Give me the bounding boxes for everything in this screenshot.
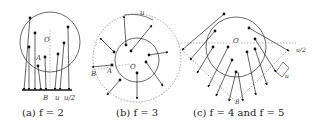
label-a: A (35, 54, 41, 62)
panel-a-diagram: O A B u u/2 (20, 12, 80, 102)
panel-c-diagram: O u/2 u B (178, 13, 306, 105)
caption-c: (c) f = 4 and f = 5 (193, 107, 284, 118)
label-u-half: u/2 (64, 94, 76, 102)
label-u-half: u/2 (296, 46, 306, 53)
label-b: B (90, 70, 96, 78)
label-b: B (234, 98, 240, 105)
label-b: B (42, 94, 48, 102)
label-u: u (55, 94, 60, 102)
label-u: u (140, 9, 145, 17)
label-o: O (130, 63, 136, 71)
label-a: A (106, 67, 112, 75)
label-u: u (285, 72, 289, 79)
caption-a: (a) f = 2 (22, 107, 64, 118)
label-o: O (44, 36, 50, 44)
panel-b-diagram: u O A B (90, 9, 181, 102)
caption-b: (b) f = 3 (116, 107, 158, 118)
label-o: O (233, 37, 239, 45)
